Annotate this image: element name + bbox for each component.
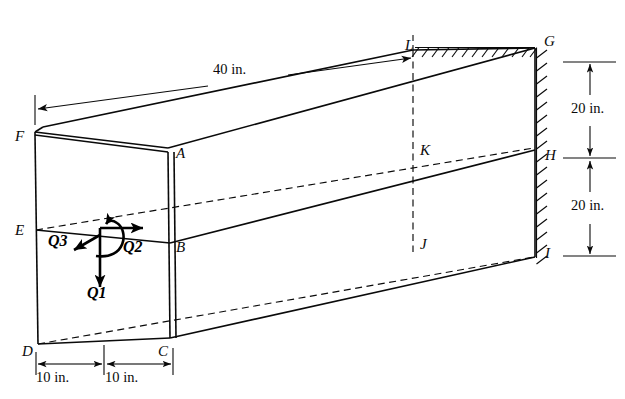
height-dimensions-group <box>563 62 616 256</box>
load-label-q1: Q1 <box>87 285 107 301</box>
vertex-label-I: I <box>545 246 550 261</box>
dimension-label-width-left: 10 in. <box>36 370 69 385</box>
vertex-label-J: J <box>420 237 427 252</box>
vertex-label-C: C <box>158 344 168 359</box>
q3-force-arrow <box>74 235 100 250</box>
length-dimension-40in <box>35 35 413 125</box>
load-label-q3-subscript: 3 <box>60 232 68 249</box>
beam-solid-edges-group <box>35 48 535 344</box>
load-label-q2-base: Q <box>123 238 135 255</box>
vertex-label-K: K <box>420 143 430 158</box>
vertex-label-F: F <box>15 129 24 144</box>
load-label-q2: Q2 <box>123 239 143 255</box>
fixed-support-hatching-icon <box>412 48 547 265</box>
engineering-figure: A B C D E F G H I J K L 40 in. 20 in. 20… <box>0 0 625 399</box>
load-label-q3: Q3 <box>48 233 68 249</box>
load-label-q1-subscript: 1 <box>99 284 107 301</box>
vertex-label-H: H <box>545 148 556 163</box>
vertex-label-B: B <box>176 240 185 255</box>
figure-drawing-canvas <box>0 0 625 399</box>
vertex-label-D: D <box>22 344 33 359</box>
dimension-label-lower-height: 20 in. <box>571 198 604 213</box>
load-label-q1-base: Q <box>87 284 99 301</box>
dimension-label-upper-height: 20 in. <box>571 101 604 116</box>
load-label-q2-subscript: 2 <box>135 238 143 255</box>
vertex-label-E: E <box>15 223 24 238</box>
vertex-label-A: A <box>176 146 185 161</box>
vertex-label-L: L <box>405 38 413 53</box>
load-label-q3-base: Q <box>48 232 60 249</box>
dimension-label-length: 40 in. <box>213 62 246 77</box>
hidden-edges-group <box>36 50 534 344</box>
vertex-label-G: G <box>544 34 555 49</box>
dimension-label-width-right: 10 in. <box>105 370 138 385</box>
